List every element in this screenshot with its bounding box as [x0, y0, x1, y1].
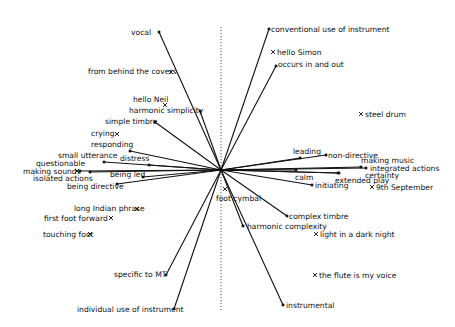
point-label: hello Neil [133, 95, 168, 104]
endpoint-dot-icon [148, 164, 151, 167]
vector-label: specific to MT [114, 270, 167, 279]
point-making-sounds: making sounds [23, 167, 81, 176]
vector-label: distress [120, 154, 149, 163]
point-label: making sounds [23, 167, 81, 176]
vector-label: being directive [67, 182, 124, 191]
biplot-diagram: vocalconventional use of instrumentoccur… [0, 0, 455, 327]
point-label: from behind the covers [88, 67, 177, 76]
point-label: touching foot [43, 230, 94, 239]
point-label: hello Simon [277, 48, 322, 57]
vector-label: being led [110, 170, 145, 179]
endpoint-dot-icon [158, 31, 161, 34]
point-steel-drum: steel drum [359, 110, 406, 119]
point-hello-simon: hello Simon [271, 48, 322, 57]
vector-label: calm [295, 173, 313, 182]
vector-label: leading [293, 147, 321, 156]
endpoint-dot-icon [286, 215, 289, 218]
vector-label: occurs in and out [278, 60, 344, 69]
endpoint-dot-icon [337, 172, 340, 175]
point-label: steel drum [365, 110, 406, 119]
vector-label: complex timbre [289, 212, 349, 221]
point-label: the flute is my voice [319, 271, 397, 280]
endpoint-dot-icon [295, 169, 298, 172]
vector-label: simple timbre [105, 117, 158, 126]
endpoint-dot-icon [275, 65, 278, 68]
endpoint-dot-icon [242, 225, 245, 228]
endpoint-dot-icon [282, 304, 285, 307]
vector-label: responding [91, 140, 134, 149]
point-label: light in a dark night [320, 230, 395, 239]
vector-label: harmonic simplicity [129, 106, 204, 115]
point-9th-september: 9th September [370, 183, 434, 192]
point-label: long Indian phrase [74, 204, 145, 213]
endpoint-dot-icon [103, 161, 106, 164]
point-label: foot cymbal [216, 194, 261, 203]
vector-label: conventional use of instrument [271, 25, 390, 34]
point-the-flute-is-my-voice: the flute is my voice [313, 271, 397, 280]
point-light-in-a-dark-night: light in a dark night [314, 230, 395, 239]
point-from-behind-the-covers: from behind the covers [88, 67, 177, 76]
point-label: first foot forward [44, 214, 108, 223]
endpoint-dot-icon [89, 171, 92, 174]
point-label: 9th September [376, 183, 434, 192]
point-touching-foot: touching foot [43, 230, 94, 239]
endpoint-dot-icon [268, 28, 271, 31]
endpoint-dot-icon [129, 150, 132, 153]
vector-label: harmonic complexity [247, 222, 327, 231]
endpoint-dot-icon [311, 184, 314, 187]
point-long-indian-phrase: long Indian phrase [74, 204, 145, 213]
vector-label: individual use of instrument [77, 305, 184, 314]
vector-label: instrumental [286, 301, 334, 310]
vector-label: vocal [131, 28, 151, 37]
point-label: crying [91, 129, 115, 138]
point-first-foot-forward: first foot forward [44, 214, 113, 223]
endpoint-dot-icon [365, 167, 368, 170]
endpoint-dot-icon [325, 154, 328, 157]
vector-label: initiating [315, 181, 349, 190]
